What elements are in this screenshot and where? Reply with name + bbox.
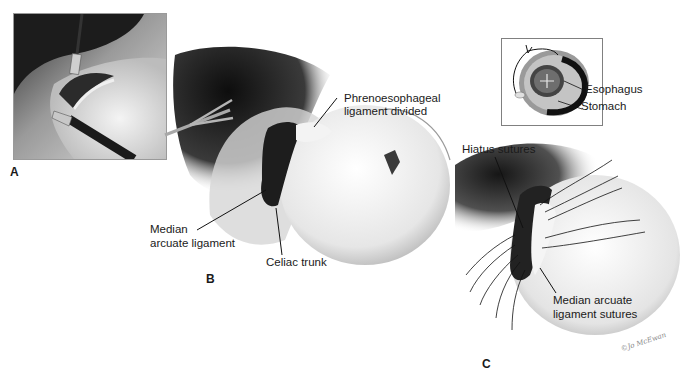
label-celiac-trunk: Celiac trunk <box>266 256 327 269</box>
label-phrenoesophageal-line1: Phrenoesophageal <box>344 92 441 105</box>
label-stomach: Stomach <box>581 100 626 113</box>
label-phrenoesophageal-line2: ligament divided <box>344 105 427 118</box>
label-median-line2: arcuate ligament <box>150 237 235 250</box>
label-hiatus-sutures: Hiatus sutures <box>462 143 536 156</box>
label-median-sutures-line1: Median arcuate <box>553 294 632 307</box>
panel-b-drawing <box>165 47 450 265</box>
label-esophagus: Esophagus <box>585 83 643 96</box>
panel-c-letter: C <box>482 357 491 371</box>
label-median-sutures-line2: ligament sutures <box>553 308 637 321</box>
label-median-line1: Median <box>150 223 188 236</box>
panel-b-letter: B <box>206 272 215 286</box>
